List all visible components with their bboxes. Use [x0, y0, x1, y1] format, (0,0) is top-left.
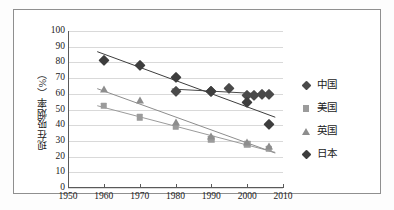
- legend-item-中国[interactable]: 中国: [300, 74, 384, 97]
- y-tick-label: 10: [56, 168, 66, 178]
- legend-label: 日本: [317, 149, 337, 160]
- y-tick-label: 80: [56, 58, 66, 68]
- x-tick-mark: [68, 184, 69, 188]
- data-point-美国: [136, 114, 143, 121]
- legend-label: 中国: [317, 80, 337, 91]
- x-tick-mark: [283, 184, 284, 188]
- y-tick-label: 40: [56, 120, 66, 130]
- x-tick-mark: [104, 184, 105, 188]
- legend-item-英国[interactable]: 英国: [300, 120, 384, 143]
- y-tick-label: 50: [56, 105, 66, 115]
- legend-label: 美国: [317, 103, 337, 114]
- chart-figure: 现在吸烟率（%） 0102030405060708090100 19501960…: [0, 0, 394, 210]
- x-tick-mark: [176, 184, 177, 188]
- data-point-英国: [265, 142, 273, 149]
- data-point-英国: [207, 133, 215, 140]
- x-tick-mark: [211, 184, 212, 188]
- data-point-英国: [172, 119, 180, 126]
- legend-item-日本[interactable]: 日本: [300, 143, 384, 166]
- x-tick-label: 1950: [59, 192, 78, 202]
- y-axis-tick-labels: 0102030405060708090100: [14, 31, 65, 188]
- y-axis-line: [68, 31, 69, 188]
- legend-label: 英国: [317, 126, 337, 137]
- triangle-icon: [300, 128, 312, 135]
- data-point-美国: [101, 102, 108, 109]
- y-tick-label: 90: [56, 42, 66, 52]
- x-tick-label: 2010: [274, 192, 293, 202]
- x-tick-mark: [140, 184, 141, 188]
- trendlines: [68, 31, 283, 188]
- y-tick-label: 100: [51, 26, 65, 36]
- y-tick-label: 20: [56, 152, 66, 162]
- data-point-英国: [243, 139, 251, 146]
- data-point-英国: [136, 97, 144, 104]
- chart-legend: 中国美国英国日本: [300, 74, 384, 166]
- diamond-icon: [300, 151, 312, 158]
- x-tick-label: 1960: [94, 192, 113, 202]
- x-tick-mark: [247, 184, 248, 188]
- square-icon: [300, 105, 312, 112]
- gridline: [68, 188, 283, 189]
- y-tick-label: 60: [56, 89, 66, 99]
- y-tick-label: 30: [56, 136, 66, 146]
- legend-item-美国[interactable]: 美国: [300, 97, 384, 120]
- plot-area: 1950196019701980199020002010: [68, 31, 283, 188]
- data-point-英国: [100, 86, 108, 93]
- x-tick-label: 1970: [130, 192, 149, 202]
- trendline-日本: [97, 52, 275, 118]
- y-tick-label: 70: [56, 73, 66, 83]
- diamond-icon: [300, 82, 312, 89]
- chart-frame: 现在吸烟率（%） 0102030405060708090100 19501960…: [13, 9, 381, 194]
- x-tick-label: 1990: [202, 192, 221, 202]
- x-tick-label: 2000: [238, 192, 257, 202]
- x-tick-label: 1980: [166, 192, 185, 202]
